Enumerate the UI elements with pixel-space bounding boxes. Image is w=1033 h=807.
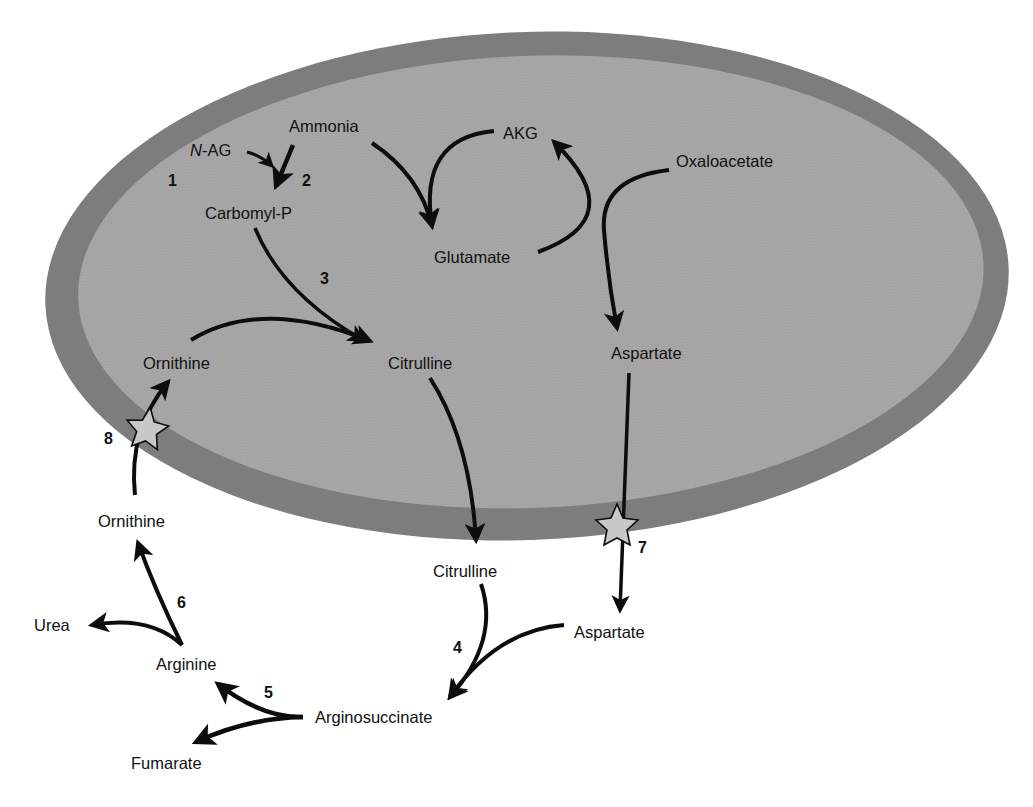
arrow-arginosuccinate-to-fumarate bbox=[196, 717, 303, 742]
label-fumarate: Fumarate bbox=[131, 755, 202, 772]
label-citrulline-mito: Citrulline bbox=[388, 355, 452, 372]
mitochondrion bbox=[36, 14, 1019, 559]
step-number-1: 1 bbox=[168, 173, 177, 189]
step-number-6: 6 bbox=[177, 595, 186, 611]
label-akg: AKG bbox=[503, 125, 538, 142]
step-number-8: 8 bbox=[104, 431, 113, 447]
step-number-4: 4 bbox=[453, 640, 462, 656]
label-nag-prefix: N bbox=[190, 141, 202, 159]
label-ornithine-mito: Ornithine bbox=[143, 355, 210, 372]
diagram-canvas bbox=[0, 0, 1033, 807]
urea-cycle-diagram: N-AG Ammonia Carbomyl-P AKG Oxaloacetate… bbox=[0, 0, 1033, 807]
step-number-7: 7 bbox=[638, 540, 647, 556]
arrow-arginosuccinate-to-arginine bbox=[218, 684, 303, 717]
label-ammonia-mito: Ammonia bbox=[289, 118, 359, 135]
label-ornithine-cyto: Ornithine bbox=[98, 513, 165, 530]
label-arginine: Arginine bbox=[156, 656, 217, 673]
arrow-arginine-to-urea bbox=[92, 623, 182, 646]
step-number-5: 5 bbox=[264, 685, 273, 701]
label-arginosuccinate: Arginosuccinate bbox=[315, 709, 432, 726]
label-nag: N-AG bbox=[190, 142, 231, 159]
step-number-3: 3 bbox=[320, 271, 329, 287]
arrow-aspartate-to-arginosuccinate bbox=[450, 625, 564, 697]
label-aspartate-cyto: Aspartate bbox=[574, 624, 645, 641]
label-nag-suffix: -AG bbox=[202, 141, 231, 159]
label-aspartate-mito: Aspartate bbox=[611, 345, 682, 362]
label-oxaloacetate: Oxaloacetate bbox=[676, 153, 773, 170]
step-number-2: 2 bbox=[302, 173, 311, 189]
label-glutamate: Glutamate bbox=[434, 249, 510, 266]
label-citrulline-cyto: Citrulline bbox=[433, 563, 497, 580]
label-carbomyl-p: Carbomyl-P bbox=[205, 205, 292, 222]
label-urea: Urea bbox=[34, 617, 70, 634]
